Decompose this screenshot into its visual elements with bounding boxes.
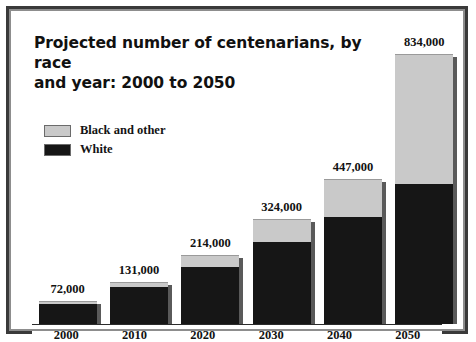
- bar-segment-white-2030: [253, 242, 311, 324]
- bar-value-label-2010: 131,000: [119, 263, 160, 278]
- x-axis-tick-2000: 2000: [32, 325, 100, 342]
- chart-figure: Projected number of centenarians, by rac…: [0, 0, 476, 342]
- x-axis-tick-2030: 2030: [237, 325, 305, 342]
- bar-slot-2020: 214,000: [175, 36, 246, 324]
- bar-slot-2010: 131,000: [103, 36, 174, 324]
- bar-segment-black-and-other-2030: [253, 219, 311, 242]
- figure-frame: Projected number of centenarians, by rac…: [6, 6, 468, 334]
- plot-area: 72,000 131,000: [32, 36, 460, 324]
- bar-segment-white-2040: [324, 217, 382, 324]
- bar-value-label-2030: 324,000: [261, 200, 302, 215]
- stacked-bar-2010: 131,000: [110, 282, 168, 324]
- bar-slot-2040: 447,000: [317, 36, 388, 324]
- bar-value-label-2040: 447,000: [333, 160, 374, 175]
- stacked-bar-2030: 324,000: [253, 219, 311, 324]
- x-axis-tick-2010: 2010: [100, 325, 168, 342]
- bar-segment-black-and-other-2020: [181, 255, 239, 268]
- stacked-bar-2000: 72,000: [39, 301, 97, 324]
- bar-slot-2030: 324,000: [246, 36, 317, 324]
- stacked-bar-2050: 834,000: [395, 54, 453, 324]
- bar-value-label-2020: 214,000: [190, 236, 231, 251]
- bar-value-label-2050: 834,000: [404, 35, 445, 50]
- stacked-bar-2020: 214,000: [181, 255, 239, 324]
- bar-segment-black-and-other-2050: [395, 54, 453, 184]
- x-axis: 2000 2010 2020 2030 2040 2050: [32, 324, 442, 342]
- bar-segment-black-and-other-2040: [324, 179, 382, 217]
- bar-segment-white-2020: [181, 267, 239, 324]
- stacked-bar-2040: 447,000: [324, 179, 382, 324]
- x-axis-tick-2020: 2020: [169, 325, 237, 342]
- bar-slot-2000: 72,000: [32, 36, 103, 324]
- x-axis-tick-2050: 2050: [374, 325, 442, 342]
- bar-slot-2050: 834,000: [389, 36, 460, 324]
- bar-group: 72,000 131,000: [32, 36, 460, 324]
- bar-segment-white-2010: [110, 287, 168, 324]
- bar-segment-white-2000: [39, 304, 97, 324]
- figure-canvas: Projected number of centenarians, by rac…: [16, 16, 458, 324]
- bar-segment-white-2050: [395, 184, 453, 324]
- bar-value-label-2000: 72,000: [50, 282, 84, 297]
- x-axis-tick-2040: 2040: [305, 325, 373, 342]
